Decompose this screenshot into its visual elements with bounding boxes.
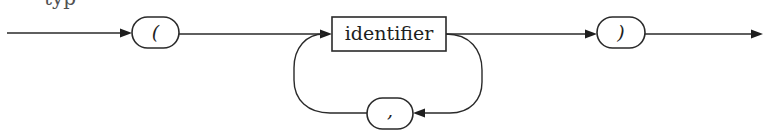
arrow-head-icon — [585, 30, 597, 39]
arrow-head-icon — [751, 30, 763, 39]
arrow-head-icon — [413, 109, 425, 118]
open-paren-label: ( — [132, 19, 179, 46]
syntax-diagram: typ ( identifier , ) — [0, 0, 766, 132]
identifier-label: identifier — [332, 19, 446, 47]
arrow-head-icon — [120, 29, 132, 38]
close-paren-label: ) — [597, 19, 645, 46]
comma-label: , — [367, 97, 413, 124]
